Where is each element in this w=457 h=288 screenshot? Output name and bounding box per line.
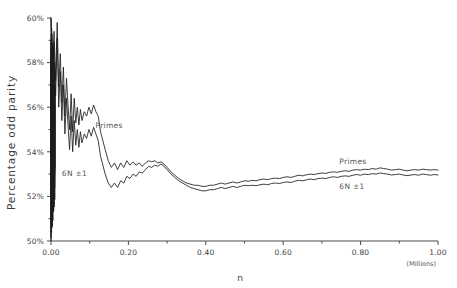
x-tick-label: 0.20 <box>120 248 138 257</box>
y-tick-label: 54% <box>27 148 44 157</box>
x-axis-units-note: (Millions) <box>407 260 436 268</box>
y-axis-ticks <box>47 18 51 241</box>
percentage-odd-parity-line-chart: Percentage odd parity 60%58%56%54%52%50%… <box>0 0 457 288</box>
series-group <box>51 18 438 191</box>
x-axis-title: n <box>237 273 243 283</box>
six-n-label-right: 6N ±1 <box>339 182 364 191</box>
series-line-primes <box>51 18 438 186</box>
x-axis-ticks <box>51 241 438 245</box>
y-tick-label: 52% <box>27 192 44 201</box>
chart-container: Percentage odd parity 60%58%56%54%52%50%… <box>0 0 457 288</box>
y-tick-label: 58% <box>27 58 44 67</box>
six-n-label-left: 6N ±1 <box>62 169 87 178</box>
initial-oscillation-line-2 <box>51 39 55 241</box>
x-tick-label: 1.00 <box>429 248 447 257</box>
x-tick-label: 0.00 <box>42 248 60 257</box>
y-tick-label: 56% <box>27 103 44 112</box>
x-tick-label: 0.40 <box>197 248 215 257</box>
x-tick-label: 0.60 <box>274 248 292 257</box>
x-tick-label: 0.80 <box>352 248 370 257</box>
primes-label-left: Primes <box>96 121 123 130</box>
series-line-6n-1 <box>51 18 438 191</box>
y-tick-label: 50% <box>27 237 44 246</box>
y-tick-label: 60% <box>27 14 44 23</box>
primes-label-right: Primes <box>339 157 366 166</box>
x-axis-tick-labels: 0.000.200.400.600.801.00 <box>42 248 447 257</box>
y-axis-title: Percentage odd parity <box>5 75 17 210</box>
y-axis-tick-labels: 60%58%56%54%52%50% <box>27 14 44 246</box>
